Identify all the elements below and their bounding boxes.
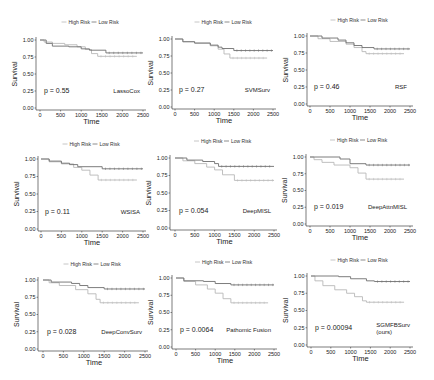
y-axis-title: Survival: [147, 300, 154, 325]
legend: High RiskLow Risk: [195, 259, 253, 265]
km-panel-0: High RiskLow Risk0.000.250.500.751.00050…: [11, 19, 149, 126]
legend-label-low-risk: Low Risk: [100, 141, 121, 147]
legend: High RiskLow Risk: [64, 261, 122, 267]
y-tick-label: 0.00: [23, 105, 34, 111]
y-axis-title: Survival: [145, 180, 152, 205]
x-tick-label: 2000: [384, 228, 396, 234]
y-tick-label: 0.00: [157, 225, 168, 231]
legend-label-high-risk: High Risk: [337, 137, 359, 143]
x-axis-title: Time: [84, 238, 100, 247]
x-tick-label: 2000: [118, 353, 130, 359]
y-tick-label: 0.00: [294, 342, 305, 348]
legend: High RiskLow Risk: [62, 19, 120, 25]
y-tick-label: 0.50: [25, 311, 36, 317]
x-tick-label: 2000: [384, 349, 396, 355]
y-tick-label: 0.50: [159, 70, 170, 76]
curve-high-risk: [310, 36, 404, 54]
legend: High RiskLow Risk: [63, 141, 121, 147]
y-tick-label: 0.25: [157, 207, 168, 213]
p-value-label: p = 0.46: [314, 83, 340, 91]
y-tick-label: 0.75: [294, 290, 305, 296]
y-tick-label: 0.50: [23, 71, 34, 77]
curve-low-risk: [175, 39, 273, 51]
legend-label-high-risk: High Risk: [69, 19, 91, 25]
x-tick-label: 500: [56, 112, 65, 118]
y-tick-label: 0.50: [159, 309, 170, 315]
x-tick-label: 500: [326, 349, 335, 355]
y-tick-label: 0.25: [23, 88, 34, 94]
km-panel-5: High RiskLow Risk0.000.250.500.751.00050…: [281, 137, 416, 242]
legend-label-high-risk: High Risk: [201, 138, 223, 144]
curve-low-risk: [310, 36, 410, 49]
model-name-label: SVMSurv: [245, 87, 270, 93]
legend-label-high-risk: High Risk: [70, 141, 92, 147]
curve-high-risk: [175, 158, 274, 180]
x-tick-label: 2000: [384, 108, 396, 114]
y-tick-label: 0.00: [159, 344, 170, 350]
p-value-label: p = 0.0064: [180, 326, 213, 334]
p-value-label: p = 0.019: [314, 203, 343, 211]
x-axis-title: Time: [216, 237, 232, 246]
x-tick-label: 500: [325, 108, 334, 114]
y-tick-label: 0.25: [25, 329, 36, 335]
model-name-label: WSISA: [121, 209, 140, 215]
model-name-label: Pathomic Fusion: [226, 327, 271, 333]
curve-low-risk: [175, 158, 274, 166]
model-name-label: LassoCox: [113, 88, 140, 94]
km-panel-7: High RiskLow Risk0.000.250.500.751.00050…: [147, 259, 280, 365]
legend: High RiskLow Risk: [195, 19, 253, 25]
y-tick-label: 0.00: [159, 104, 170, 110]
y-tick-label: 0.25: [159, 87, 170, 93]
legend-label-high-risk: High Risk: [202, 259, 224, 265]
model-name-suffix: (ours): [376, 329, 392, 335]
y-tick-label: 1.00: [25, 156, 36, 162]
curve-high-risk: [40, 40, 137, 56]
x-tick-label: 2000: [248, 232, 260, 238]
x-tick-label: 2500: [137, 112, 149, 118]
y-tick-label: 0.75: [25, 173, 36, 179]
x-tick-label: 500: [57, 233, 66, 239]
km-panel-2: High RiskLow Risk0.000.250.500.751.00050…: [282, 17, 416, 122]
y-tick-label: 0.25: [159, 327, 170, 333]
curve-high-risk: [41, 159, 137, 180]
y-axis-title: Survival: [13, 302, 20, 327]
legend-label-low-risk: Low Risk: [368, 257, 389, 263]
y-tick-label: 0.00: [25, 226, 36, 232]
curve-low-risk: [310, 157, 410, 165]
km-panel-6: High RiskLow Risk0.000.250.500.751.00050…: [13, 261, 151, 367]
x-tick-label: 0: [308, 228, 311, 234]
x-tick-label: 0: [309, 349, 312, 355]
km-curves-grid: High RiskLow Risk0.000.250.500.751.00050…: [0, 0, 434, 380]
x-axis-title: Time: [352, 354, 368, 363]
y-tick-label: 1.00: [23, 37, 34, 43]
legend-label-low-risk: Low Risk: [99, 19, 120, 25]
y-tick-label: 1.00: [294, 273, 305, 279]
x-tick-label: 500: [59, 353, 68, 359]
y-axis-title: Survival: [282, 298, 289, 323]
legend: High RiskLow Risk: [194, 138, 252, 144]
km-charts-canvas: High RiskLow Risk0.000.250.500.751.00050…: [0, 0, 434, 380]
legend-label-low-risk: Low Risk: [101, 261, 122, 267]
x-tick-label: 0: [174, 351, 177, 357]
y-tick-label: 0.00: [25, 346, 36, 352]
x-tick-label: 0: [308, 108, 311, 114]
y-tick-label: 1.00: [25, 277, 36, 283]
curve-high-risk: [310, 157, 404, 179]
y-tick-label: 0.50: [293, 187, 304, 193]
y-tick-label: 0.50: [25, 191, 36, 197]
y-tick-label: 0.25: [294, 325, 305, 331]
y-tick-label: 0.00: [294, 101, 305, 107]
x-tick-label: 2000: [116, 112, 128, 118]
y-tick-label: 0.25: [25, 208, 36, 214]
y-tick-label: 0.75: [25, 294, 36, 300]
y-tick-label: 1.00: [294, 33, 305, 39]
x-tick-label: 2500: [268, 351, 280, 357]
y-tick-label: 0.75: [23, 54, 34, 60]
x-axis-title: Time: [352, 233, 368, 242]
x-axis-title: Time: [83, 117, 99, 126]
y-tick-label: 0.25: [294, 84, 305, 90]
y-tick-label: 1.00: [157, 155, 168, 161]
x-tick-label: 500: [190, 111, 199, 117]
y-tick-label: 0.75: [159, 292, 170, 298]
x-tick-label: 500: [325, 228, 334, 234]
